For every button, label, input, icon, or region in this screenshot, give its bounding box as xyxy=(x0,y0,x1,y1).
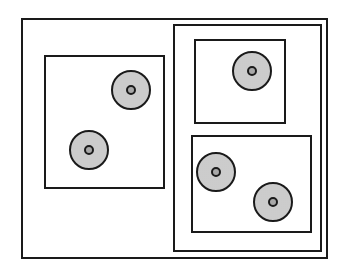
left-box xyxy=(44,55,165,189)
cell-nucleus xyxy=(211,167,221,177)
diagram-canvas xyxy=(0,0,347,276)
cell-nucleus xyxy=(247,66,257,76)
cell-nucleus xyxy=(268,197,278,207)
cell-nucleus xyxy=(84,145,94,155)
cell-nucleus xyxy=(126,85,136,95)
